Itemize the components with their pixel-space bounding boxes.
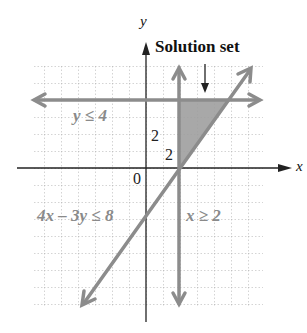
solution-set-title: Solution set (155, 37, 240, 57)
y-tick-label-2: 2 (151, 127, 159, 145)
y-axis-label: y (140, 13, 147, 30)
label-y-le-4: y ≤ 4 (73, 106, 107, 126)
y-axis-arrow-icon (142, 42, 150, 55)
x-axis-arrow-icon (278, 164, 292, 172)
graph-canvas (0, 0, 307, 333)
label-x-ge-2: x ≥ 2 (186, 206, 221, 226)
origin-label: 0 (133, 170, 141, 188)
x-tick-label-2: 2 (165, 146, 173, 164)
x-axis-label: x (296, 158, 303, 175)
label-4x-minus-3y-le-8: 4x – 3y ≤ 8 (37, 206, 113, 226)
